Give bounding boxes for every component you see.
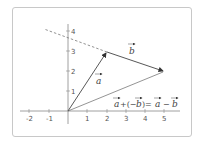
svg-text:1: 1 (71, 88, 75, 96)
svg-text:a: a (114, 99, 119, 109)
dashed-extension-line (44, 29, 107, 52)
svg-text:b: b (129, 46, 135, 56)
svg-text:4: 4 (143, 115, 148, 123)
svg-text:)=: )= (142, 100, 152, 109)
svg-text:+(−: +(− (120, 100, 137, 109)
y-tick-labels: 1 2 3 4 (71, 28, 76, 96)
svg-text:a: a (96, 76, 101, 86)
svg-text:1: 1 (85, 115, 89, 123)
svg-text:4: 4 (71, 28, 76, 36)
equation-label: a +(− b )= a − b (113, 98, 178, 109)
svg-text:b: b (172, 99, 178, 109)
label-b: b (128, 44, 135, 56)
svg-text:2: 2 (71, 68, 75, 76)
label-a: a (95, 74, 102, 86)
vector-diagram: -2 -1 1 2 3 4 5 1 2 3 4 a b (0, 0, 201, 143)
svg-text:5: 5 (162, 115, 166, 123)
vector-minus-b (107, 52, 163, 71)
svg-text:a: a (155, 99, 160, 109)
x-tick-labels: -2 -1 1 2 3 4 5 (26, 115, 166, 123)
svg-text:−: − (163, 100, 170, 109)
svg-text:2: 2 (105, 115, 109, 123)
svg-text:3: 3 (124, 115, 128, 123)
svg-text:3: 3 (71, 48, 75, 56)
svg-text:-2: -2 (26, 115, 33, 123)
svg-text:-1: -1 (46, 115, 53, 123)
